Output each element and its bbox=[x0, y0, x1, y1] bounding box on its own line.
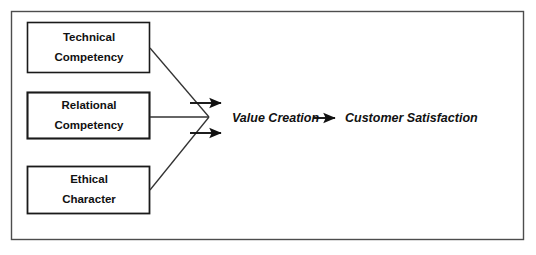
diagram-canvas: Technical Competency Relational Competen… bbox=[0, 0, 536, 255]
box-ethical-character-line1: Ethical bbox=[70, 173, 108, 185]
value-creation-label: Value Creation bbox=[232, 111, 319, 125]
box-technical-competency-line2: Competency bbox=[54, 51, 124, 63]
box-relational-competency-line1: Relational bbox=[62, 99, 117, 111]
box-ethical-character[interactable]: Ethical Character bbox=[28, 167, 150, 214]
box-relational-competency[interactable]: Relational Competency bbox=[28, 93, 150, 139]
customer-satisfaction-label: Customer Satisfaction bbox=[345, 111, 478, 125]
value-creation-diagram: Technical Competency Relational Competen… bbox=[0, 0, 536, 255]
box-ethical-character-line2: Character bbox=[62, 193, 116, 205]
box-relational-competency-line2: Competency bbox=[54, 119, 124, 131]
box-technical-competency[interactable]: Technical Competency bbox=[28, 23, 150, 73]
box-technical-competency-line1: Technical bbox=[63, 31, 115, 43]
box-technical-competency-rect bbox=[28, 23, 150, 73]
